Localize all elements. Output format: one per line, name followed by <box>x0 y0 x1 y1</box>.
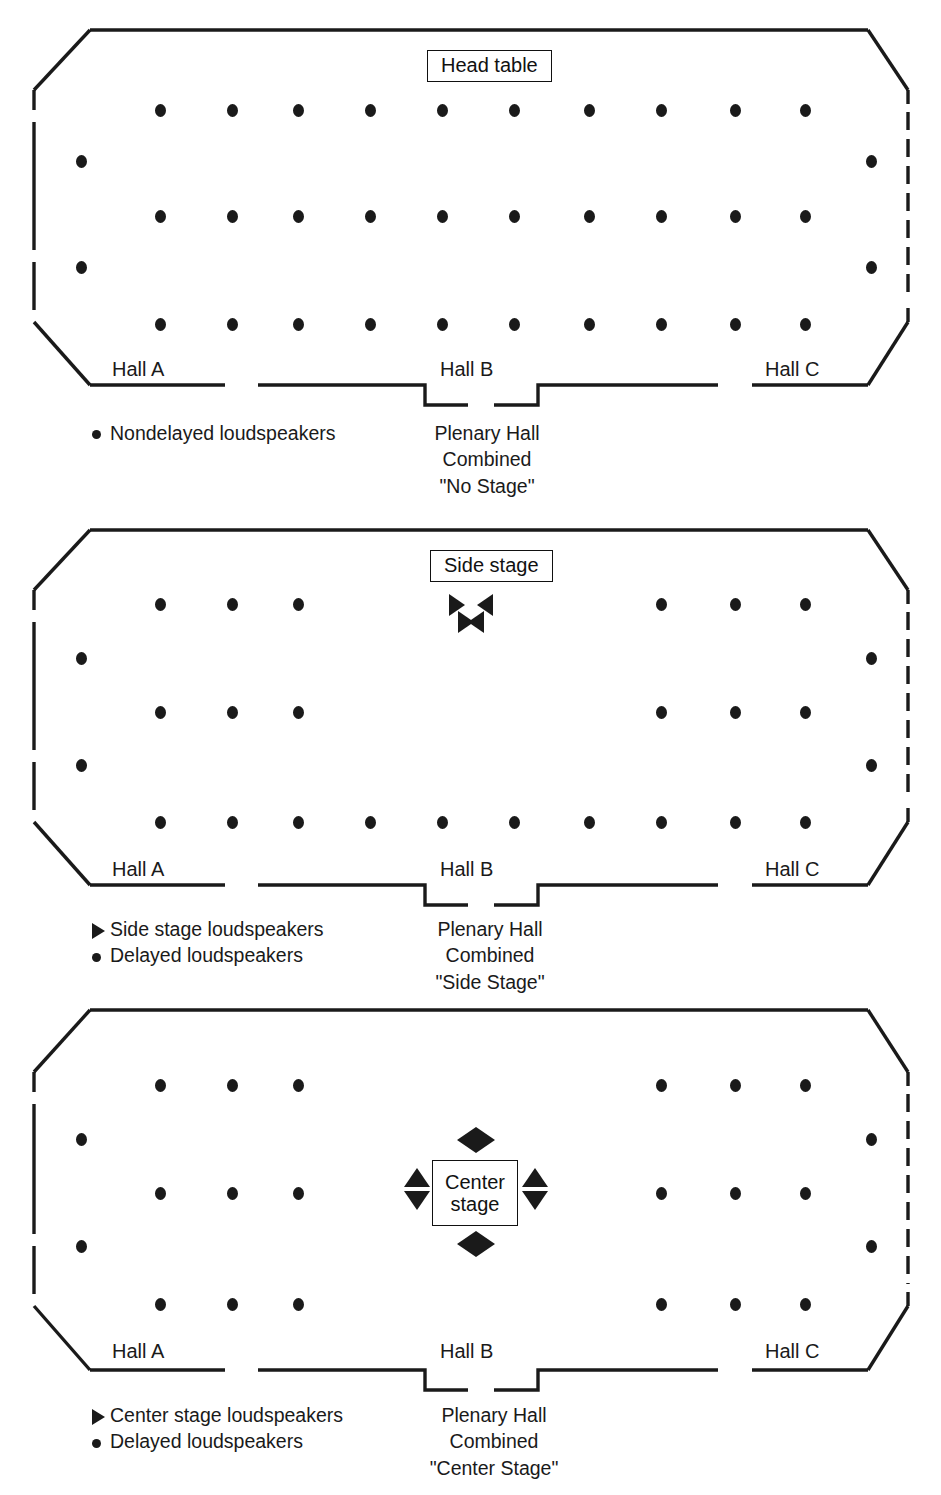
loudspeaker-dot <box>800 816 811 829</box>
center-stage-loudspeaker-icon <box>457 1127 476 1153</box>
loudspeaker-dot <box>155 598 166 611</box>
loudspeaker-dot <box>76 261 87 274</box>
legend-no-stage: Nondelayed loudspeakers <box>92 420 336 446</box>
loudspeaker-dot <box>365 816 376 829</box>
plenary-line: "No Stage" <box>422 473 552 499</box>
loudspeaker-dot <box>656 1298 667 1311</box>
loudspeaker-dot <box>730 210 741 223</box>
loudspeaker-dot <box>800 1298 811 1311</box>
center-stage-loudspeaker-icon <box>404 1191 430 1210</box>
legend-row: Center stage loudspeakers <box>92 1402 343 1428</box>
plenary-line: "Side Stage" <box>422 969 558 995</box>
loudspeaker-dot <box>155 1079 166 1092</box>
plenary-line: Combined <box>420 1428 568 1454</box>
loudspeaker-dot <box>584 816 595 829</box>
loudspeaker-dot <box>730 318 741 331</box>
loudspeaker-dot <box>293 816 304 829</box>
legend-label: Center stage loudspeakers <box>110 1402 343 1428</box>
plenary-line: Plenary Hall <box>422 916 558 942</box>
loudspeaker-dot <box>656 816 667 829</box>
hall-label-b: Hall B <box>440 1340 493 1363</box>
loudspeaker-dot <box>730 706 741 719</box>
loudspeaker-dot <box>155 706 166 719</box>
loudspeaker-dot <box>509 318 520 331</box>
plenary-line: "Center Stage" <box>420 1455 568 1481</box>
stage-box-label-line2: stage <box>451 1193 500 1215</box>
loudspeaker-dot <box>730 816 741 829</box>
loudspeaker-dot <box>656 210 667 223</box>
legend-label: Delayed loudspeakers <box>110 1428 303 1454</box>
loudspeaker-dot <box>293 598 304 611</box>
loudspeaker-dot <box>155 210 166 223</box>
loudspeaker-dot <box>76 759 87 772</box>
loudspeaker-dot <box>800 104 811 117</box>
hall-label-a: Hall A <box>112 1340 164 1363</box>
loudspeaker-dot <box>437 104 448 117</box>
loudspeaker-dot <box>730 1079 741 1092</box>
loudspeaker-dot <box>76 1133 87 1146</box>
loudspeaker-dot <box>293 1079 304 1092</box>
loudspeaker-dot <box>365 104 376 117</box>
loudspeaker-dot <box>584 210 595 223</box>
loudspeaker-dot <box>866 759 877 772</box>
loudspeaker-dot <box>293 104 304 117</box>
legend-row: Delayed loudspeakers <box>92 1428 343 1454</box>
hall-label-b: Hall B <box>440 858 493 881</box>
stage-box-label-line1: Center <box>445 1171 505 1193</box>
loudspeaker-dot <box>509 104 520 117</box>
floor-plan-panel-side-stage: Side stage Hall A Hall B Hall C Side sta… <box>0 510 941 988</box>
loudspeaker-dot <box>800 318 811 331</box>
loudspeaker-dot <box>155 816 166 829</box>
legend-label: Side stage loudspeakers <box>110 916 324 942</box>
loudspeaker-dot <box>730 598 741 611</box>
loudspeaker-dot <box>155 104 166 117</box>
loudspeaker-dot <box>584 104 595 117</box>
loudspeaker-dot <box>800 1079 811 1092</box>
loudspeaker-dot <box>227 816 238 829</box>
legend-row: Delayed loudspeakers <box>92 942 324 968</box>
delayed-loudspeaker-icon <box>92 1428 110 1454</box>
stage-box-label: Side stage <box>444 554 539 576</box>
hall-label-c: Hall C <box>765 1340 819 1363</box>
floor-plan-panel-no-stage: Head table Hall A Hall B Hall C Nondelay… <box>0 0 941 510</box>
loudspeaker-dot <box>656 1079 667 1092</box>
hall-label-a: Hall A <box>112 358 164 381</box>
loudspeaker-dot <box>155 318 166 331</box>
side-stage-loudspeaker-icon <box>468 611 484 633</box>
legend-row: Side stage loudspeakers <box>92 916 324 942</box>
delayed-loudspeaker-icon <box>92 942 110 968</box>
legend-row: Nondelayed loudspeakers <box>92 420 336 446</box>
loudspeaker-dot <box>656 706 667 719</box>
plenary-line: Combined <box>422 942 558 968</box>
plenary-caption-side-stage: Plenary Hall Combined "Side Stage" <box>422 916 558 995</box>
floor-plan-panel-center-stage: Center stage Hall A Hall B Hall C Center… <box>0 988 941 1495</box>
plenary-caption-center-stage: Plenary Hall Combined "Center Stage" <box>420 1402 568 1481</box>
center-stage-loudspeaker-icon <box>457 1231 476 1257</box>
center-stage-loudspeaker-icon <box>404 1168 430 1187</box>
loudspeaker-dot <box>866 652 877 665</box>
legend-label: Nondelayed loudspeakers <box>110 420 336 446</box>
loudspeaker-dot <box>866 155 877 168</box>
stage-box-head-table: Head table <box>427 50 552 82</box>
loudspeaker-dot <box>227 1298 238 1311</box>
loudspeaker-dot <box>76 652 87 665</box>
legend-center-stage: Center stage loudspeakers Delayed loudsp… <box>92 1402 343 1455</box>
center-stage-loudspeaker-icon <box>522 1191 548 1210</box>
loudspeaker-dot <box>800 210 811 223</box>
loudspeaker-dot <box>76 155 87 168</box>
loudspeaker-dot <box>365 318 376 331</box>
loudspeaker-dot <box>866 1133 877 1146</box>
loudspeaker-dot <box>227 1187 238 1200</box>
stage-box-center-stage: Center stage <box>432 1160 518 1226</box>
loudspeaker-dot <box>656 1187 667 1200</box>
loudspeaker-dot <box>227 318 238 331</box>
loudspeaker-dot <box>800 1187 811 1200</box>
loudspeaker-dot <box>227 104 238 117</box>
loudspeaker-dot <box>227 706 238 719</box>
hall-label-c: Hall C <box>765 358 819 381</box>
loudspeaker-dot <box>155 1187 166 1200</box>
loudspeaker-dot <box>293 210 304 223</box>
hall-label-c: Hall C <box>765 858 819 881</box>
center-stage-loudspeaker-icon <box>92 1402 110 1428</box>
loudspeaker-dot <box>509 816 520 829</box>
